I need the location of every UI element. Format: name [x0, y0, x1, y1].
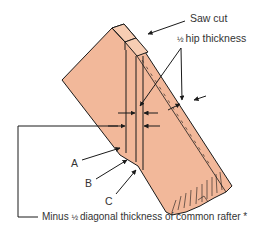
asterisk-icon: *: [243, 211, 247, 222]
label-prefix: Minus: [42, 211, 71, 222]
label-saw-cut: Saw cut: [190, 13, 227, 24]
label-minus-half-diagonal: Minus ½ diagonal thickness of common raf…: [42, 212, 247, 222]
label-b: B: [85, 178, 92, 189]
label-c: C: [105, 196, 113, 207]
label-text: diagonal thickness of common rafter: [77, 211, 243, 222]
label-text: hip thickness: [183, 32, 247, 44]
label-half-hip-thickness: ½ hip thickness: [177, 33, 246, 44]
label-a: A: [71, 158, 78, 169]
bracket-line: [18, 126, 118, 217]
